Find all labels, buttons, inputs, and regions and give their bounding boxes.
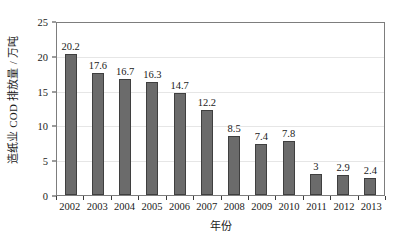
bar-group: 2.4 xyxy=(357,23,384,195)
x-axis-tick-label: 2008 xyxy=(221,201,248,217)
bar-value-label: 3 xyxy=(313,161,318,172)
bar-group: 3 xyxy=(302,23,329,195)
bar xyxy=(283,141,295,195)
bar xyxy=(65,54,77,195)
x-axis-tick-mark xyxy=(138,196,139,200)
bar-group: 12.2 xyxy=(193,23,220,195)
x-axis-tick-label: 2003 xyxy=(83,201,110,217)
bar xyxy=(146,82,158,195)
bar-group: 8.5 xyxy=(221,23,248,195)
bar-value-label: 7.8 xyxy=(282,128,295,139)
bar-group: 17.6 xyxy=(84,23,111,195)
bar-group: 7.8 xyxy=(275,23,302,195)
bar xyxy=(228,136,240,195)
x-axis-title: 年份 xyxy=(56,217,385,233)
bar-chart-figure: 造纸业 COD 排放量 / 万吨 0510152025 20.217.616.7… xyxy=(0,0,410,241)
x-axis-tick-label: 2010 xyxy=(275,201,302,217)
y-axis-tick-label: 0 xyxy=(43,191,48,202)
bar-group: 16.7 xyxy=(112,23,139,195)
y-axis-tick-label: 25 xyxy=(38,17,49,28)
x-axis-tick-mark xyxy=(166,196,167,200)
x-axis-tick-mark xyxy=(385,196,386,200)
bar-value-label: 7.4 xyxy=(255,131,268,142)
x-axis-tick-label: 2012 xyxy=(330,201,357,217)
x-axis-tick-label: 2004 xyxy=(111,201,138,217)
x-axis-tick-label: 2006 xyxy=(166,201,193,217)
x-axis-tick-mark xyxy=(358,196,359,200)
x-axis-tick-label: 2013 xyxy=(358,201,385,217)
x-axis-tick-mark xyxy=(56,196,57,200)
bar-value-label: 2.9 xyxy=(337,162,350,173)
bar-value-label: 16.7 xyxy=(116,66,134,77)
bars-layer: 20.217.616.716.314.712.28.57.47.832.92.4 xyxy=(57,23,384,195)
bar-value-label: 16.3 xyxy=(143,69,161,80)
y-axis-tick-label: 20 xyxy=(38,51,49,62)
bar-value-label: 2.4 xyxy=(364,165,377,176)
x-axis-tick-marks xyxy=(56,196,385,200)
y-axis-tick-labels: 0510152025 xyxy=(26,22,52,196)
x-axis-tick-mark xyxy=(248,196,249,200)
bar-value-label: 8.5 xyxy=(228,123,241,134)
bar xyxy=(255,144,267,196)
bar-group: 7.4 xyxy=(248,23,275,195)
bar-value-label: 14.7 xyxy=(170,80,188,91)
bar xyxy=(364,178,376,195)
x-axis-tick-mark xyxy=(330,196,331,200)
y-axis-title-label: 造纸业 COD 排放量 / 万吨 xyxy=(4,36,20,164)
x-axis-tick-mark xyxy=(193,196,194,200)
y-axis-title: 造纸业 COD 排放量 / 万吨 xyxy=(0,0,24,200)
bar xyxy=(310,174,322,195)
bar-group: 20.2 xyxy=(57,23,84,195)
x-axis-tick-label: 2005 xyxy=(138,201,165,217)
bar xyxy=(337,175,349,195)
bar xyxy=(92,73,104,195)
y-axis-tick-label: 5 xyxy=(43,156,48,167)
x-axis-tick-label: 2007 xyxy=(193,201,220,217)
bar-group: 16.3 xyxy=(139,23,166,195)
x-axis-tick-label: 2009 xyxy=(248,201,275,217)
bar-value-label: 20.2 xyxy=(61,41,79,52)
bar-value-label: 12.2 xyxy=(198,97,216,108)
bar-value-label: 17.6 xyxy=(89,60,107,71)
bar-group: 2.9 xyxy=(330,23,357,195)
bar xyxy=(119,79,131,195)
x-axis-tick-mark xyxy=(221,196,222,200)
x-axis-tick-mark xyxy=(275,196,276,200)
x-axis-tick-mark xyxy=(83,196,84,200)
x-axis-tick-label: 2002 xyxy=(56,201,83,217)
x-axis-tick-mark xyxy=(303,196,304,200)
x-axis-tick-labels: 2002200320042005200620072008200920102011… xyxy=(56,201,385,217)
bar xyxy=(174,93,186,195)
bar xyxy=(201,110,213,195)
x-axis-tick-label: 2011 xyxy=(303,201,330,217)
y-axis-tick-label: 10 xyxy=(38,121,49,132)
plot-area: 20.217.616.716.314.712.28.57.47.832.92.4 xyxy=(56,22,385,196)
x-axis-tick-mark xyxy=(111,196,112,200)
bar-group: 14.7 xyxy=(166,23,193,195)
y-axis-tick-label: 15 xyxy=(38,86,49,97)
